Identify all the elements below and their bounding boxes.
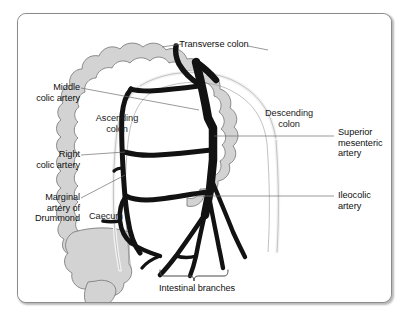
intestinal-arcade-1 <box>176 256 196 258</box>
label-descending-colon: Descending colon <box>258 108 320 129</box>
label-superior-mesenteric-artery: Superior mesenteric artery <box>338 127 402 159</box>
label-transverse-colon: Transverse colon <box>178 39 250 50</box>
label-right-colic-artery: Right colic artery <box>16 149 80 170</box>
label-marginal-artery-of-drummond: Marginal artery of Drummond <box>12 192 80 224</box>
label-intestinal-branches: Intestinal branches <box>142 283 252 294</box>
figure-root: Transverse colon Middle colic artery Asc… <box>0 0 409 318</box>
label-ascending-colon: Ascending colon <box>88 113 146 134</box>
appendix-tail <box>84 280 115 309</box>
label-caecum: Caecum <box>82 211 130 222</box>
label-middle-colic-artery: Middle colic artery <box>16 82 80 103</box>
label-ileocolic-artery: Ileocolic artery <box>338 190 402 211</box>
